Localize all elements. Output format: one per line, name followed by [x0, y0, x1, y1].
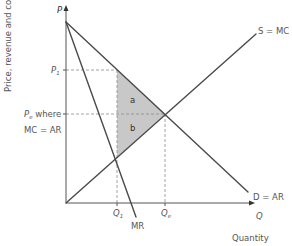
supply-curve — [66, 34, 256, 203]
region-a-label: a — [130, 95, 135, 105]
pe-label: Pe where — [24, 109, 61, 120]
welfare-loss-diagram: P Q Price, revenue and cost Quantity S =… — [0, 0, 292, 246]
supply-curve-label: S = MC — [258, 26, 289, 36]
qe-label: Qe — [161, 208, 172, 219]
curves — [66, 22, 256, 217]
ticks — [63, 70, 165, 206]
pe-condition-label: MC = AR — [24, 125, 62, 135]
deadweight-loss-triangle — [117, 70, 165, 157]
axes — [66, 10, 250, 203]
y-axis-title: Price, revenue and cost — [3, 0, 13, 92]
y-axis-symbol: P — [57, 5, 63, 15]
region-b-label: b — [130, 123, 135, 133]
demand-curve-label: D = AR — [253, 192, 284, 202]
y-axis-arrow-icon — [64, 5, 69, 11]
x-axis-title: Quantity — [232, 233, 269, 243]
demand-curve — [66, 22, 248, 192]
q1-label: Q1 — [113, 208, 123, 219]
guide-lines — [66, 70, 165, 203]
p1-label: P1 — [51, 65, 60, 76]
x-axis-symbol: Q — [256, 211, 263, 221]
mr-curve-label: MR — [131, 221, 144, 231]
